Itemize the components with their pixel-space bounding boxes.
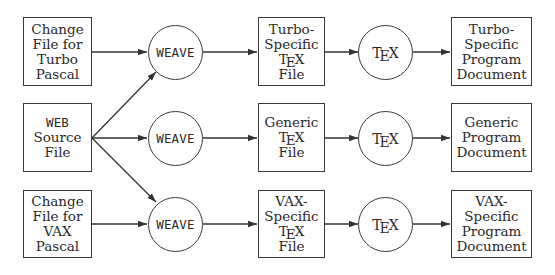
tex-logo-x: X xyxy=(389,131,399,147)
box-label-line: Program xyxy=(462,224,522,239)
box-label-line: WEB xyxy=(46,115,69,130)
box-label-line: Document xyxy=(456,239,526,254)
tex-logo-x: X xyxy=(295,51,305,67)
box-label-line: Pascal xyxy=(36,67,79,82)
tex-logo: TEX xyxy=(279,52,305,67)
box-label-line: File xyxy=(45,145,71,160)
arrow-web-to-weave-top xyxy=(92,72,156,138)
box-label-line: VAX- xyxy=(275,194,307,209)
weave-label: WEAVE xyxy=(156,45,195,60)
tex-logo-x: X xyxy=(389,217,399,233)
box-label-line: Source xyxy=(33,130,81,145)
box-label-line: Program xyxy=(462,130,522,145)
tex-logo: TEX xyxy=(372,131,399,147)
tex-logo-e: E xyxy=(380,48,390,64)
box-label-line: Specific xyxy=(464,209,518,224)
tex-logo: TEX xyxy=(279,130,305,145)
box-label-line: Generic xyxy=(265,115,319,130)
box-label-line: Turbo- xyxy=(269,22,314,37)
tex-logo-e: E xyxy=(286,226,296,242)
vax-change-file-box: Change File for VAX Pascal xyxy=(23,190,92,258)
box-label-line: VAX xyxy=(43,224,71,239)
box-label-line: Program xyxy=(462,52,522,67)
box-label-line: File for xyxy=(33,209,83,224)
web-source-file-box: WEB Source File xyxy=(23,103,92,172)
tex-logo-e: E xyxy=(380,134,390,150)
tex-node-top: TEX xyxy=(358,25,413,80)
weave-node-middle: WEAVE xyxy=(148,111,203,166)
tex-logo-x: X xyxy=(295,129,305,145)
box-label-line: VAX- xyxy=(475,194,507,209)
tex-logo-e: E xyxy=(286,54,296,70)
box-label-line: Pascal xyxy=(36,239,79,254)
vax-specific-tex-file-box: VAX- Specific TEX File xyxy=(258,190,325,258)
box-label-line: Change xyxy=(31,22,83,37)
tex-logo: TEX xyxy=(279,224,305,239)
turbo-specific-tex-file-box: Turbo- Specific TEX File xyxy=(258,17,325,86)
arrow-web-to-weave-bottom xyxy=(92,138,156,202)
tex-logo: TEX xyxy=(372,217,399,233)
box-label-line: Turbo xyxy=(37,52,78,67)
box-label-line: Generic xyxy=(465,115,519,130)
tex-node-middle: TEX xyxy=(358,111,413,166)
box-label-line: Document xyxy=(456,145,526,160)
tex-logo-e: E xyxy=(286,132,296,148)
weave-node-top: WEAVE xyxy=(148,25,203,80)
tex-node-bottom: TEX xyxy=(358,197,413,252)
box-label-line: Specific xyxy=(264,209,318,224)
weave-label: WEAVE xyxy=(156,217,195,232)
box-label-line: Change xyxy=(31,194,83,209)
generic-program-document-box: Generic Program Document xyxy=(451,103,532,172)
box-label-line: Document xyxy=(456,67,526,82)
tex-logo-x: X xyxy=(295,223,305,239)
box-label-line: Turbo- xyxy=(469,22,514,37)
tex-logo: TEX xyxy=(372,45,399,61)
box-label-line: Specific xyxy=(464,37,518,52)
weave-label: WEAVE xyxy=(156,131,195,146)
weave-node-bottom: WEAVE xyxy=(148,197,203,252)
vax-specific-program-document-box: VAX- Specific Program Document xyxy=(451,190,532,258)
generic-tex-file-box: Generic TEX File xyxy=(258,103,325,172)
tex-logo-x: X xyxy=(389,45,399,61)
box-label-line: File for xyxy=(33,37,83,52)
box-label-line: Specific xyxy=(264,37,318,52)
turbo-change-file-box: Change File for Turbo Pascal xyxy=(23,17,92,86)
tex-logo-e: E xyxy=(380,220,390,236)
turbo-specific-program-document-box: Turbo- Specific Program Document xyxy=(451,17,532,86)
